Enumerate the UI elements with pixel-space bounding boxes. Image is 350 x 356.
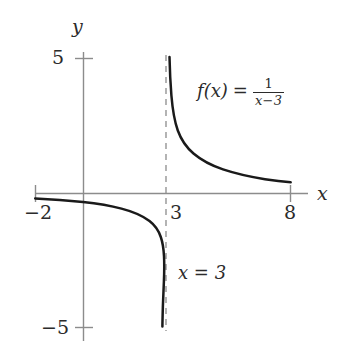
- y-tick-label-5: 5: [52, 48, 64, 67]
- curve-left-branch: [35, 198, 164, 326]
- x-tick-label-8: 8: [284, 203, 296, 222]
- x-axis-label: x: [317, 184, 328, 203]
- fraction: 1 x−3: [253, 77, 284, 107]
- fraction-denominator: x−3: [253, 93, 284, 108]
- asymptote-annotation: x = 3: [178, 264, 226, 282]
- fraction-numerator: 1: [262, 77, 276, 92]
- x-tick-label-neg2: −2: [24, 203, 52, 222]
- function-graph-figure: y x 5 −5 −2 3 8 x = 3 f(x) = 1 x−3: [0, 0, 350, 356]
- function-expression-label: f(x) = 1 x−3: [197, 76, 284, 106]
- x-tick-label-3: 3: [170, 203, 182, 222]
- y-tick-label-neg5: −5: [41, 318, 69, 337]
- equals-sign: =: [233, 82, 248, 100]
- function-name: f(x): [197, 82, 228, 100]
- y-axis-label: y: [72, 17, 83, 36]
